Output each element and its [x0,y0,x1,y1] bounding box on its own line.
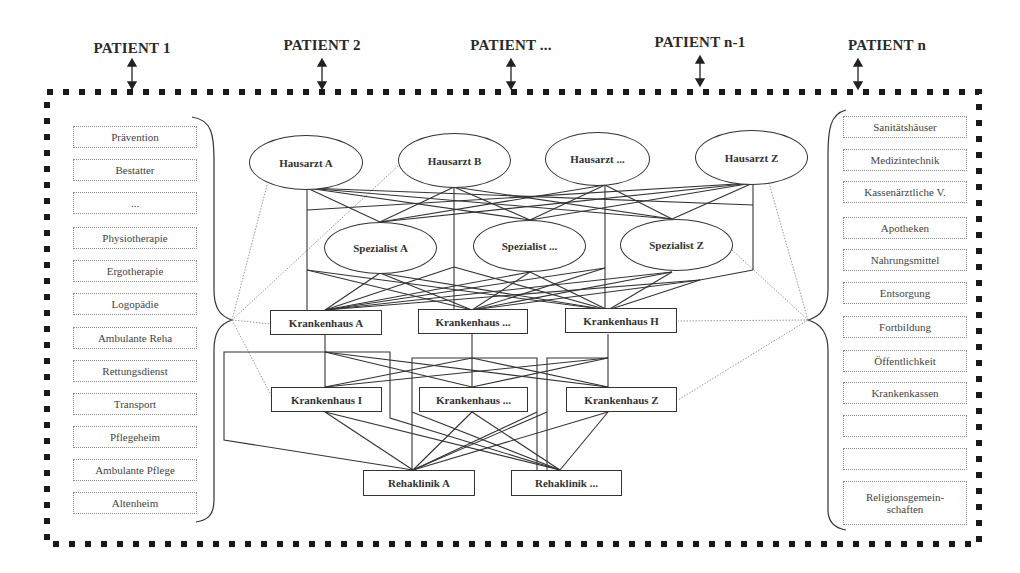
left-service-item: Rettungsdienst [73,360,197,382]
patient-label-n-minus-1: PATIENT n-1 [655,34,746,51]
hausarzt-node: Hausarzt B [398,133,511,188]
left-service-item: ... [73,192,197,214]
left-service-item: Ambulante Pflege [73,459,197,481]
patient-label-n: PATIENT n [848,37,926,54]
patient-arrows [128,56,862,89]
patient-label-ellipsis: PATIENT ... [470,37,551,54]
spezialist-node: Spezialist ... [473,220,586,272]
right-service-item-empty [843,448,967,470]
hausarzt-node: Hausarzt A [249,135,363,190]
right-service-item: Nahrungsmittel [843,249,967,271]
left-service-item: Physiotherapie [73,227,197,249]
krankenhaus-node: Krankenhaus ... [419,387,528,412]
right-service-item: Fortbildung [843,316,967,338]
left-service-item: Ambulante Reha [73,327,197,349]
left-service-item: Transport [73,393,197,415]
krankenhaus-node: Krankenhaus ... [418,309,528,334]
right-bracket [808,110,846,530]
spezialist-node: Spezialist Z [620,219,733,271]
right-service-item-empty [843,415,967,437]
krankenhaus-node: Krankenhaus A [270,310,382,335]
right-service-item: Öffentlichkeit [843,350,967,372]
hausarzt-node: Hausarzt ... [545,132,650,186]
left-service-item: Ergotherapie [73,260,197,282]
right-service-item: Apotheken [843,217,967,239]
right-service-item: Sanitätshäuser [843,116,967,138]
right-service-item: Medizintechnik [843,149,967,171]
left-bracket [192,117,232,522]
left-service-item: Logopädie [73,293,197,315]
patient-label-1: PATIENT 1 [93,40,170,57]
patient-label-2: PATIENT 2 [283,37,360,54]
spezialist-node: Spezialist A [324,222,437,274]
krankenhaus-node: Krankenhaus Z [566,387,677,412]
krankenhaus-node: Krankenhaus H [565,308,677,333]
krankenhaus-node: Krankenhaus I [271,387,382,412]
right-service-item: Kassenärztliche V. [843,181,967,203]
rehaklinik-node: Rehaklinik ... [511,470,622,496]
rehaklinik-node: Rehaklinik A [363,470,475,496]
left-service-item: Pflegeheim [73,426,197,448]
right-service-item: Entsorgung [843,282,967,304]
right-service-item: Krankenkassen [843,382,967,404]
left-service-item: Prävention [73,126,197,148]
left-service-item: Bestatter [73,159,197,181]
care-network-diagram: PATIENT 1 PATIENT 2 PATIENT ... PATIENT … [0,0,1020,573]
right-service-item: Religionsgemein- schaften [843,481,967,525]
hausarzt-node: Hausarzt Z [695,130,808,185]
left-service-item: Altenheim [73,492,197,514]
